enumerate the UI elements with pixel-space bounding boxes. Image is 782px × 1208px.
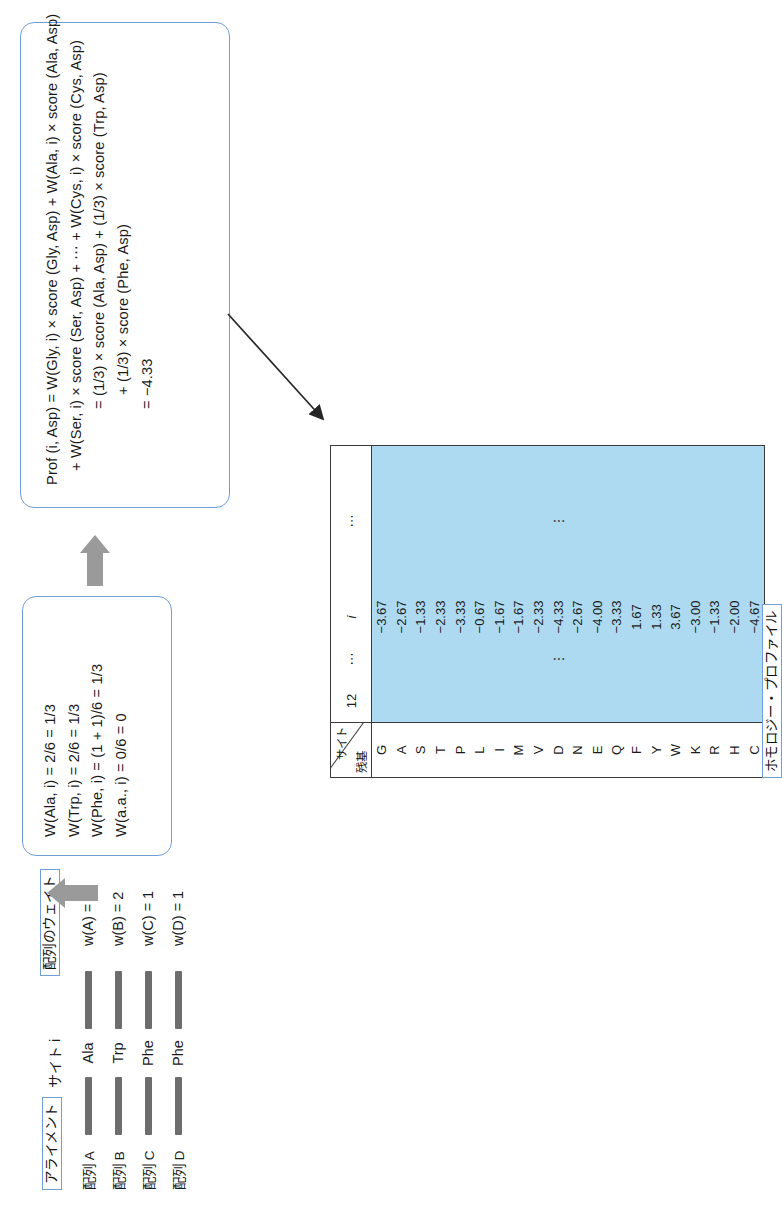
sequence-bar-left: [115, 1077, 122, 1135]
value-cell-column-i: −3.00: [686, 596, 706, 638]
residue-cell: I: [490, 723, 510, 778]
ellipsis-cell: [588, 638, 608, 680]
ellipsis-cell: ⋮: [548, 446, 568, 596]
ellipsis-cell: [646, 638, 666, 680]
value-cell-column-i: −2.33: [529, 596, 549, 638]
value-cell-column-i: 1.33: [646, 596, 666, 638]
column-header: ⋯: [331, 446, 372, 596]
residue-cell: W: [666, 723, 686, 778]
sequence-weight: w(C) = 1: [140, 891, 156, 946]
profile-formula-line: Prof (i, Asp) = W(Gly, i) × score (Gly, …: [41, 23, 65, 485]
residue-cell: R: [705, 723, 725, 778]
column-header: ⋯: [331, 638, 372, 680]
sequence-name: 配列 D: [168, 1142, 188, 1190]
profile-formula-line: + W(Ser, i) × score (Ser, Asp) + ⋯ + W(C…: [65, 23, 89, 485]
value-cell: [411, 680, 431, 723]
value-cell: [588, 680, 608, 723]
table-row: E−4.00: [588, 446, 608, 777]
table-row: G−3.67: [372, 446, 392, 777]
sequence-bar-left: [175, 1077, 182, 1135]
table-row: H−2.00: [725, 446, 745, 777]
ellipsis-cell: [509, 638, 529, 680]
ellipsis-cell: [568, 446, 588, 596]
table-row: Q−3.33: [607, 446, 627, 777]
sequence-residue: Phe: [140, 1036, 156, 1070]
sequence-bar-left: [85, 1077, 92, 1135]
residue-cell: Y: [646, 723, 666, 778]
ellipsis-cell: [470, 446, 490, 596]
residue-cell: D: [548, 723, 568, 778]
column-header: 12: [331, 680, 372, 723]
value-cell: [392, 680, 412, 723]
table-row: W3.67: [666, 446, 686, 777]
residue-cell: N: [568, 723, 588, 778]
table-row: M−1.67: [509, 446, 529, 777]
table-corner-cell: サイト 残基: [331, 723, 372, 778]
sequence-residue: Phe: [170, 1036, 186, 1070]
value-cell: [431, 680, 451, 723]
weight-formula-line: W(Phe, i) = (1 + 1)/6 = 1/3: [86, 597, 110, 837]
value-cell: [450, 680, 470, 723]
homology-profile-table: サイト 残基 12 ⋯ i ⋯ G−3.67A−2.67S−1.33T−2.33…: [330, 445, 765, 778]
value-cell: [470, 680, 490, 723]
pointer-arrow-profile-to-table: [226, 302, 336, 432]
ellipsis-cell: [627, 446, 647, 596]
weight-formula-line: W(Trp, i) = 2/6 = 1/3: [63, 597, 87, 837]
value-cell-column-i: −2.67: [568, 596, 588, 638]
sequence-bar-right: [85, 971, 92, 1029]
value-cell: [646, 680, 666, 723]
value-cell-column-i: −1.33: [411, 596, 431, 638]
ellipsis-cell: ⋮: [548, 638, 568, 680]
residue-cell: V: [529, 723, 549, 778]
residue-cell: P: [450, 723, 470, 778]
ellipsis-cell: [725, 638, 745, 680]
ellipsis-cell: [509, 446, 529, 596]
profile-formula-box: Prof (i, Asp) = W(Gly, i) × score (Gly, …: [20, 22, 230, 508]
sequence-bar-right: [115, 971, 122, 1029]
table-row: S−1.33: [411, 446, 431, 777]
ellipsis-cell: [372, 638, 392, 680]
value-cell: [568, 680, 588, 723]
weight-formula-line: W(Ala, i) = 2/6 = 1/3: [39, 597, 63, 837]
ellipsis-cell: [431, 446, 451, 596]
ellipsis-cell: [666, 446, 686, 596]
ellipsis-cell: [392, 446, 412, 596]
profile-table: サイト 残基 12 ⋯ i ⋯ G−3.67A−2.67S−1.33T−2.33…: [331, 446, 764, 777]
ellipsis-cell: [646, 446, 666, 596]
table-row: Y1.33: [646, 446, 666, 777]
value-cell-column-i: −2.00: [725, 596, 745, 638]
value-cell: [705, 680, 725, 723]
ellipsis-cell: [725, 446, 745, 596]
ellipsis-cell: [529, 446, 549, 596]
table-row: I−1.67: [490, 446, 510, 777]
ellipsis-cell: [411, 638, 431, 680]
value-cell: [607, 680, 627, 723]
column-header-i: i: [331, 596, 372, 638]
residue-cell: M: [509, 723, 529, 778]
site-i-label: サイト i: [44, 1039, 64, 1088]
value-cell: [686, 680, 706, 723]
value-cell: [627, 680, 647, 723]
sequence-weight: w(B) = 2: [110, 892, 126, 946]
residue-cell: L: [470, 723, 490, 778]
value-cell-column-i: −2.33: [431, 596, 451, 638]
alignment-label: アライメント: [42, 1097, 62, 1190]
ellipsis-cell: [529, 638, 549, 680]
ellipsis-cell: [686, 638, 706, 680]
sequence-bar-right: [145, 971, 152, 1029]
ellipsis-cell: [450, 638, 470, 680]
value-cell-column-i: −3.33: [607, 596, 627, 638]
value-cell-column-i: −0.67: [470, 596, 490, 638]
ellipsis-cell: [392, 638, 412, 680]
sequence-bar-left: [145, 1077, 152, 1135]
ellipsis-cell: [411, 446, 431, 596]
ellipsis-cell: [450, 446, 470, 596]
ellipsis-cell: [607, 446, 627, 596]
residue-cell: Q: [607, 723, 627, 778]
profile-formula-line: = (1/3) × score (Ala, Asp) + (1/3) × sco…: [88, 23, 112, 485]
residue-cell: K: [686, 723, 706, 778]
residue-cell: E: [588, 723, 608, 778]
table-row: F1.67: [627, 446, 647, 777]
ellipsis-cell: [470, 638, 490, 680]
